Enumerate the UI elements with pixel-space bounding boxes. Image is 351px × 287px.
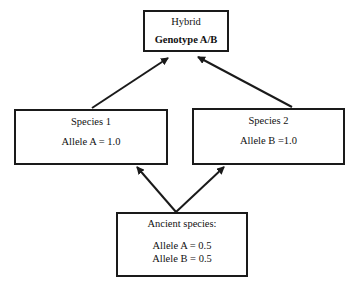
arrow-species1-to-hybrid	[92, 58, 168, 108]
hybrid-genotype: Genotype A/B	[145, 34, 227, 45]
species2-node: Species 2 Allele B =1.0	[192, 108, 345, 165]
species1-node: Species 1 Allele A = 1.0	[14, 109, 168, 165]
species2-allele: Allele B =1.0	[194, 135, 343, 146]
species1-allele: Allele A = 1.0	[16, 136, 166, 147]
ancient-allele-a: Allele A = 0.5	[118, 240, 246, 251]
arrow-ancient-to-species1	[137, 167, 176, 212]
species2-title: Species 2	[194, 115, 343, 126]
hybrid-node: Hybrid Genotype A/B	[143, 10, 229, 52]
arrow-species2-to-hybrid	[198, 57, 292, 107]
ancient-species-node: Ancient species: Allele A = 0.5 Allele B…	[116, 212, 248, 277]
ancient-title: Ancient species:	[118, 218, 246, 229]
ancient-allele-b: Allele B = 0.5	[118, 253, 246, 264]
hybrid-title: Hybrid	[145, 16, 227, 27]
species1-title: Species 1	[16, 116, 166, 127]
arrow-ancient-to-species2	[176, 167, 224, 212]
